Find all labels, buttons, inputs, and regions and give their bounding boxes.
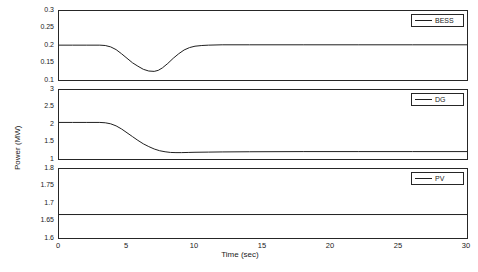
ytick-dg-3: 1.5 [20, 137, 54, 145]
legend-label-dg: DG [435, 95, 446, 104]
ytick-pv-1: 1.75 [20, 181, 54, 189]
ytick-dg-1: 2.5 [20, 102, 54, 110]
xtick-6: 30 [456, 241, 476, 250]
ytick-pv-2: 1.7 [20, 199, 54, 207]
panel-pv [58, 168, 468, 239]
legend-label-pv: PV [435, 174, 444, 183]
xtick-3: 15 [252, 241, 272, 250]
legend-bess: BESS [411, 14, 464, 27]
legend-line-bess [415, 20, 432, 21]
panel-dg [58, 89, 468, 160]
legend-label-bess: BESS [435, 16, 454, 25]
ytick-dg-2: 2 [20, 120, 54, 128]
dg-plot-area [59, 90, 467, 159]
xtick-4: 20 [320, 241, 340, 250]
ytick-dg-0: 3 [20, 85, 54, 93]
x-axis-title: Time (sec) [180, 250, 300, 259]
ytick-dg-4: 1 [20, 155, 54, 163]
xtick-1: 5 [116, 241, 136, 250]
legend-pv: PV [411, 172, 464, 185]
figure: Power (MW) Time (sec) 0.3 0.25 0.2 0.15 … [0, 0, 478, 272]
ytick-pv-3: 1.65 [20, 216, 54, 224]
panel-bess [58, 10, 468, 81]
ytick-bess-4: 0.1 [20, 76, 54, 84]
ytick-bess-0: 0.3 [20, 6, 54, 14]
ytick-bess-3: 0.15 [20, 58, 54, 66]
pv-plot-area [59, 169, 467, 238]
legend-dg: DG [411, 93, 464, 106]
legend-line-dg [415, 99, 432, 100]
xtick-5: 25 [388, 241, 408, 250]
ytick-pv-0: 1.8 [20, 164, 54, 172]
legend-line-pv [415, 178, 432, 179]
bess-plot-area [59, 11, 467, 80]
ytick-bess-1: 0.25 [20, 23, 54, 31]
xtick-0: 0 [48, 241, 68, 250]
ytick-bess-2: 0.2 [20, 41, 54, 49]
xtick-2: 10 [184, 241, 204, 250]
